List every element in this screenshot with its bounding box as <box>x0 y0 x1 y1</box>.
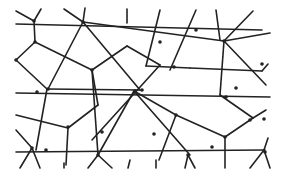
mesh-diagram <box>0 0 283 179</box>
mesh-node <box>234 86 238 90</box>
mesh-edge <box>16 150 265 152</box>
mesh-node <box>186 153 190 157</box>
mesh-edge <box>98 155 112 168</box>
mesh-edge <box>36 89 47 150</box>
mesh-edge <box>98 91 134 155</box>
mesh-edge <box>253 110 266 118</box>
mesh-edge <box>68 105 98 128</box>
edges <box>16 8 270 168</box>
mesh-node <box>66 125 70 129</box>
mesh-node <box>263 150 267 154</box>
mesh-node <box>81 20 85 24</box>
mesh-node <box>30 146 34 150</box>
mesh-node <box>90 68 94 72</box>
mesh-edge <box>16 60 47 89</box>
mesh-node <box>33 40 37 44</box>
mesh-edge <box>34 9 41 21</box>
mesh-node <box>133 89 137 93</box>
mesh-edge <box>146 66 190 68</box>
mesh-node <box>46 87 50 91</box>
mesh-edge <box>20 148 32 168</box>
mesh-node <box>158 40 162 44</box>
mesh-node <box>32 19 36 23</box>
mesh-edge <box>16 11 34 21</box>
mesh-node <box>248 118 252 122</box>
mesh-edge <box>134 91 190 155</box>
mesh-edge <box>250 150 264 168</box>
mesh-edge <box>170 10 196 70</box>
mesh-node <box>100 130 104 134</box>
mesh-node <box>223 135 227 139</box>
mesh-edge <box>185 155 188 168</box>
mesh-edge <box>264 138 268 150</box>
mesh-node <box>222 39 226 43</box>
mesh-node <box>260 62 264 66</box>
mesh-edge <box>88 155 98 168</box>
mesh-edge <box>16 130 32 148</box>
mesh-edge <box>188 155 195 168</box>
mesh-edge <box>64 9 83 22</box>
mesh-node <box>262 117 266 121</box>
mesh-edge <box>92 70 98 155</box>
mesh-node <box>96 153 100 157</box>
mesh-node <box>174 113 178 117</box>
mesh-edge <box>35 42 92 70</box>
mesh-edge <box>32 148 40 168</box>
mesh-edge <box>127 46 160 65</box>
mesh-node <box>224 95 228 99</box>
mesh-edge <box>48 22 83 89</box>
mesh-edge <box>92 46 127 70</box>
mesh-edge <box>216 10 220 40</box>
mesh-edge <box>83 8 85 22</box>
mesh-node <box>194 28 198 32</box>
mesh-edge <box>176 115 225 137</box>
mesh-edge <box>66 128 68 165</box>
mesh-node <box>14 58 18 62</box>
mesh-node <box>35 90 39 94</box>
mesh-node <box>210 145 214 149</box>
mesh-node <box>152 132 156 136</box>
mesh-edge <box>92 65 160 140</box>
mesh-edge <box>16 42 35 60</box>
mesh-node <box>44 148 48 152</box>
mesh-node <box>140 88 144 92</box>
mesh-edge <box>34 21 35 42</box>
mesh-edge <box>220 41 224 95</box>
mesh-node <box>172 65 176 69</box>
mesh-edge <box>224 41 266 85</box>
mesh-edge <box>128 160 130 168</box>
